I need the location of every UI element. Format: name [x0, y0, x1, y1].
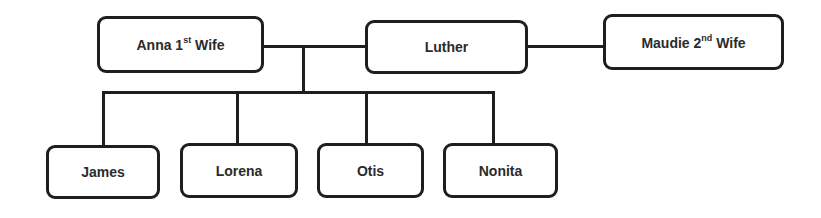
marriage-line-luther-maudie: [526, 45, 604, 48]
node-nonita: Nonita: [443, 143, 558, 198]
node-otis: Otis: [317, 143, 424, 198]
node-anna: Anna 1st Wife: [97, 16, 264, 73]
node-lorena: Lorena: [180, 143, 298, 198]
node-label: Otis: [357, 163, 384, 179]
child-drop-james: [102, 91, 105, 147]
node-label: Nonita: [479, 163, 523, 179]
node-luther: Luther: [365, 20, 528, 74]
node-label: James: [81, 164, 125, 180]
node-label: Maudie 2nd Wife: [641, 34, 745, 51]
node-james: James: [46, 145, 160, 199]
descent-line: [302, 46, 305, 93]
marriage-line-anna-luther: [262, 45, 366, 48]
node-label: Lorena: [216, 163, 263, 179]
child-drop-nonita: [492, 91, 495, 145]
node-label: Luther: [425, 39, 469, 55]
node-label: Anna 1st Wife: [136, 36, 224, 53]
node-maudie: Maudie 2nd Wife: [603, 14, 784, 70]
child-drop-otis: [365, 91, 368, 145]
children-bar: [102, 91, 495, 94]
child-drop-lorena: [236, 91, 239, 145]
